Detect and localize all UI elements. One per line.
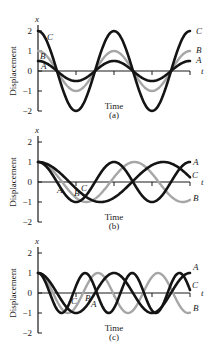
curve-label: A: [192, 262, 199, 272]
y-axis-symbol: x: [34, 236, 39, 246]
y-tick-label: 2: [28, 26, 33, 36]
x-axis-symbol: t: [201, 177, 204, 187]
curve-label: A: [90, 299, 97, 309]
y-axis-label: Displacement: [8, 268, 18, 318]
panel-caption: (c): [109, 332, 119, 342]
y-tick-label: −2: [22, 106, 32, 116]
curve-label: B: [193, 193, 199, 203]
curve-label: C: [196, 26, 203, 36]
curve-label: C: [47, 32, 54, 42]
y-axis-label: Displacement: [8, 46, 18, 96]
y-axis-symbol: x: [34, 14, 39, 24]
curve-label: B: [40, 51, 46, 61]
chart-panel-b: 210−1−2xtDisplacementTime(b)ACBABC: [8, 125, 204, 231]
y-tick-label: 0: [28, 288, 33, 298]
chart-panel-c: 210−1−2xtDisplacementTime(c)ACBCBA: [8, 236, 204, 342]
curve-label: C: [192, 280, 199, 290]
curve-label: C: [81, 183, 88, 193]
curve-label: A: [195, 55, 202, 65]
x-axis-symbol: t: [201, 288, 204, 298]
y-tick-label: 1: [28, 157, 33, 167]
panel-caption: (b): [109, 221, 120, 231]
curve-label: B: [196, 45, 202, 55]
y-tick-label: 0: [28, 177, 33, 187]
y-tick-label: −1: [22, 197, 32, 207]
y-axis-label: Displacement: [8, 157, 18, 207]
oscillation-figure: 210−1−2xtDisplacementTime(a)CBACBA 210−1…: [0, 0, 209, 349]
panel-caption: (a): [109, 110, 119, 120]
curve-label: A: [40, 61, 47, 71]
curve-label: B: [193, 303, 199, 313]
y-axis-symbol: x: [34, 125, 39, 135]
curve-label: C: [192, 170, 199, 180]
y-tick-label: −2: [22, 328, 32, 338]
y-tick-label: −2: [22, 217, 32, 227]
y-tick-label: −1: [22, 308, 32, 318]
curve-label: B: [74, 188, 80, 198]
y-tick-label: 1: [28, 46, 33, 56]
y-tick-label: 0: [28, 66, 33, 76]
curve-label: C: [71, 296, 78, 306]
y-tick-label: 2: [28, 248, 33, 258]
chart-panel-a: 210−1−2xtDisplacementTime(a)CBACBA: [8, 14, 204, 120]
y-tick-label: −1: [22, 86, 32, 96]
y-tick-label: 2: [28, 137, 33, 147]
curve-label: A: [56, 185, 63, 195]
curve-label: A: [192, 157, 199, 167]
y-tick-label: 1: [28, 268, 33, 278]
x-axis-symbol: t: [201, 66, 204, 76]
